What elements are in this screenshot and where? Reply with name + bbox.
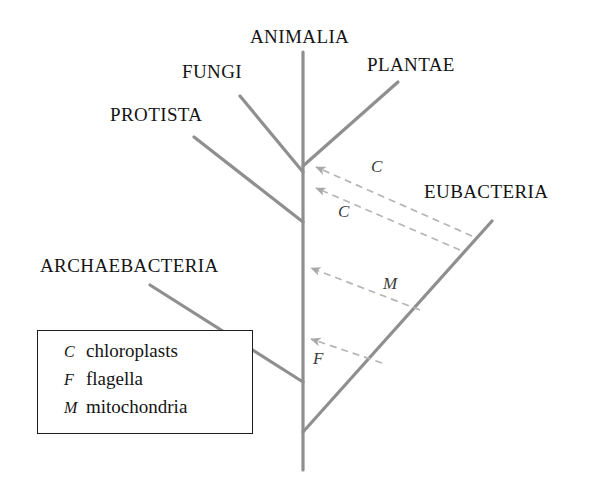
event-label-mitochondria: M <box>383 274 397 294</box>
taxon-label-eubacteria: EUBACTERIA <box>424 181 548 203</box>
event-label-flagella: F <box>313 349 323 369</box>
legend-key-m: M <box>64 399 86 417</box>
legend-box: C chloroplasts F flagella M mitochondria <box>37 330 253 434</box>
phylogenetic-tree-diagram: ANIMALIA PLANTAE FUNGI PROTISTA EUBACTER… <box>0 0 594 490</box>
taxon-label-protista: PROTISTA <box>110 104 202 126</box>
branch-fungi <box>240 96 303 172</box>
legend-desc-mitochondria: mitochondria <box>86 396 187 418</box>
taxon-label-fungi: FUNGI <box>182 61 242 83</box>
legend-key-c: C <box>64 343 86 361</box>
legend-desc-flagella: flagella <box>86 368 143 390</box>
transfer-arrow-mitochondria <box>311 268 420 310</box>
taxon-label-plantae: PLANTAE <box>367 54 455 76</box>
taxon-label-archaebacteria: ARCHAEBACTERIA <box>40 255 219 277</box>
branch-protista <box>194 137 303 222</box>
legend-key-f: F <box>64 371 86 389</box>
legend-item-flagella: F flagella <box>64 368 187 396</box>
legend-list: C chloroplasts F flagella M mitochondria <box>64 340 187 424</box>
taxon-label-animalia: ANIMALIA <box>250 26 349 48</box>
branch-plantae <box>303 82 398 166</box>
branch-eubacteria <box>303 221 492 432</box>
legend-item-chloroplasts: C chloroplasts <box>64 340 187 368</box>
event-label-chloroplast-upper: C <box>371 157 382 177</box>
legend-desc-chloroplasts: chloroplasts <box>86 340 178 362</box>
legend-item-mitochondria: M mitochondria <box>64 396 187 424</box>
event-label-chloroplast-lower: C <box>338 202 349 222</box>
